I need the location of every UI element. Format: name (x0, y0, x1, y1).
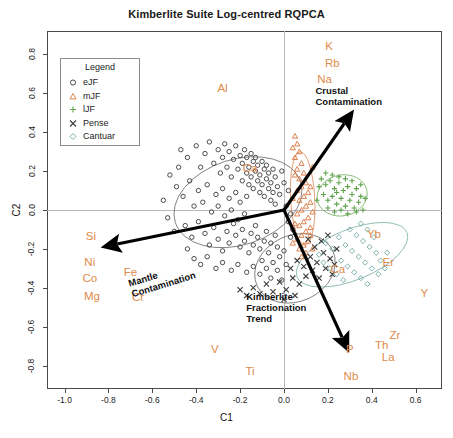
element-label-Zr: Zr (389, 329, 400, 341)
y-tick-label: -0.6 (26, 319, 36, 334)
legend-label: Cantuar (83, 130, 115, 143)
legend-title: Legend (61, 62, 139, 72)
element-label-Rb: Rb (325, 57, 340, 69)
y-tick-label: 0.0 (27, 204, 37, 216)
legend-label: Pense (83, 117, 109, 130)
y-tick (43, 54, 47, 55)
x-tick (240, 389, 241, 393)
x-tick-label: -0.4 (189, 395, 204, 405)
element-label-V: V (211, 343, 219, 355)
x-tick-label: -0.2 (233, 395, 248, 405)
annotation-line: Kimberlite (246, 291, 306, 302)
legend-symbol-triangle (67, 90, 79, 103)
element-label-Y: Y (421, 287, 429, 299)
x-tick-label: -0.8 (101, 395, 116, 405)
legend-label: mJF (83, 90, 101, 103)
element-label-P: P (346, 343, 354, 355)
x-tick (416, 389, 417, 393)
legend-symbol-plus (67, 103, 79, 116)
element-label-Al: Al (217, 82, 227, 94)
x-axis-title: C1 (0, 412, 453, 423)
y-axis-title: C2 (11, 204, 22, 217)
y-tick-label: 0.2 (27, 165, 37, 177)
element-label-Yb: Yb (367, 228, 381, 240)
element-label-Ca: Ca (330, 263, 345, 275)
zero-line-vertical (284, 31, 285, 389)
legend-symbol-x (67, 117, 79, 130)
annotation-line: Crustal (315, 85, 382, 96)
legend-box: Legend eJFmJFlJFPenseCantuar (60, 58, 140, 146)
element-label-Co: Co (82, 272, 97, 284)
legend-item-Cantuar[interactable]: Cantuar (65, 130, 137, 143)
annotation-line: Trend (246, 313, 306, 324)
y-tick (43, 132, 47, 133)
y-tick-label: -0.8 (26, 358, 36, 373)
x-tick (284, 389, 285, 393)
annotation-line: Fractionation (246, 302, 306, 313)
element-label-Mg: Mg (84, 290, 100, 302)
y-tick (43, 327, 47, 328)
y-tick-label: 0.4 (27, 126, 37, 138)
crustal-contamination: CrustalContamination (315, 85, 382, 107)
element-label-Si: Si (86, 230, 96, 242)
y-tick-label: -0.4 (26, 280, 36, 295)
legend-label: eJF (83, 76, 98, 89)
kimberlite-fractionation-trend: KimberliteFractionationTrend (246, 291, 306, 324)
y-tick (43, 210, 47, 211)
y-tick (43, 171, 47, 172)
legend-symbol-circle (67, 76, 79, 89)
element-label-Ni: Ni (84, 256, 95, 268)
x-tick (65, 389, 66, 393)
element-label-Nb: Nb (344, 370, 359, 382)
x-tick (372, 389, 373, 393)
element-label-K: K (325, 40, 333, 52)
x-tick-label: -1.0 (57, 395, 72, 405)
x-tick (328, 389, 329, 393)
y-tick (43, 249, 47, 250)
legend-symbol-diamond (67, 130, 79, 143)
legend-label: lJF (83, 103, 95, 116)
x-tick-label: 0.2 (322, 395, 334, 405)
x-tick-label: 0.6 (410, 395, 422, 405)
x-tick (196, 389, 197, 393)
y-tick (43, 93, 47, 94)
y-tick (43, 288, 47, 289)
element-label-Th: Th (375, 339, 388, 351)
chart-title: Kimberlite Suite Log-centred RQPCA (0, 8, 453, 20)
element-label-Na: Na (317, 73, 332, 85)
annotation-line: Contamination (315, 96, 382, 107)
y-tick-label: -0.2 (26, 242, 36, 257)
x-tick (152, 389, 153, 393)
element-label-Ti: Ti (245, 365, 254, 377)
x-tick-label: -0.6 (145, 395, 160, 405)
x-tick (108, 389, 109, 393)
legend-item-eJF[interactable]: eJF (65, 76, 137, 89)
legend-item-Pense[interactable]: Pense (65, 117, 137, 130)
element-label-Ca: Ca (243, 162, 258, 174)
y-tick-label: 0.6 (27, 87, 37, 99)
zero-line-horizontal (47, 210, 442, 211)
y-tick (43, 366, 47, 367)
element-label-La: La (382, 351, 395, 363)
x-tick-label: 0.0 (278, 395, 290, 405)
element-label-Er: Er (382, 256, 394, 268)
x-tick-label: 0.4 (366, 395, 378, 405)
legend-item-mJF[interactable]: mJF (65, 90, 137, 103)
y-tick-label: 0.8 (27, 48, 37, 60)
legend-item-lJF[interactable]: lJF (65, 103, 137, 116)
chart-root: Kimberlite Suite Log-centred RQPCA -1.0-… (0, 0, 453, 438)
